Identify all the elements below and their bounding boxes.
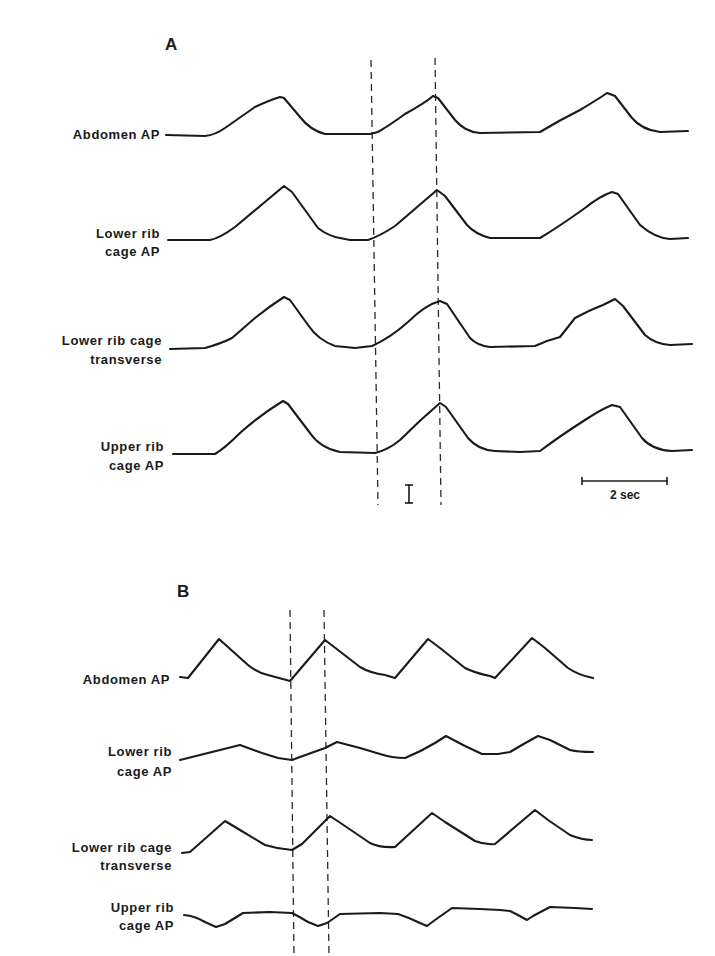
panel-b-trace-lower-rib-transverse [182,810,592,853]
panel-b-label-transverse-1: Lower rib cage [72,840,172,855]
panel-a-dashed-line-1 [371,60,378,505]
panel-b-label-transverse-2: transverse [100,858,172,873]
panel-a-label-lower-rib-ap-2: cage AP [105,244,160,259]
panel-a-label-upper-rib-ap-1: Upper rib [101,439,164,454]
panel-a-trace-lower-rib-ap [168,186,688,240]
respiratory-traces-figure: A Abdomen AP Lower rib cage AP Lower rib… [0,0,715,956]
panel-a-trace-upper-rib-ap [173,401,692,454]
panel-b-dashed-line-1 [290,610,294,956]
amplitude-scale-bar [405,485,413,503]
panel-a-trace-abdomen-ap [166,93,688,136]
panel-b-label: B [177,582,189,601]
panel-a-label: A [165,35,177,54]
panel-b-trace-upper-rib-ap [184,907,592,927]
panel-a-label-transverse-2: transverse [90,352,162,367]
panel-b-trace-lower-rib-ap [180,736,593,760]
time-scale-bar [582,477,667,485]
panel-b-dashed-line-2 [324,610,329,956]
panel-b-trace-abdomen-ap [180,638,593,681]
panel-b-label-abdomen: Abdomen AP [83,672,170,687]
panel-a-dashed-line-2 [435,58,441,505]
panel-b-label-upper-rib-ap-1: Upper rib [111,900,174,915]
panel-a-label-abdomen: Abdomen AP [73,127,160,142]
time-scale-label: 2 sec [610,488,640,502]
panel-b-label-lower-rib-ap-2: cage AP [117,764,172,779]
panel-b-label-upper-rib-ap-2: cage AP [119,918,174,933]
panel-a-trace-lower-rib-transverse [170,297,692,349]
panel-b-label-lower-rib-ap-1: Lower rib [108,744,172,759]
panel-a-label-lower-rib-ap-1: Lower rib [96,226,160,241]
panel-a-label-upper-rib-ap-2: cage AP [109,458,164,473]
panel-a-label-transverse-1: Lower rib cage [62,333,162,348]
